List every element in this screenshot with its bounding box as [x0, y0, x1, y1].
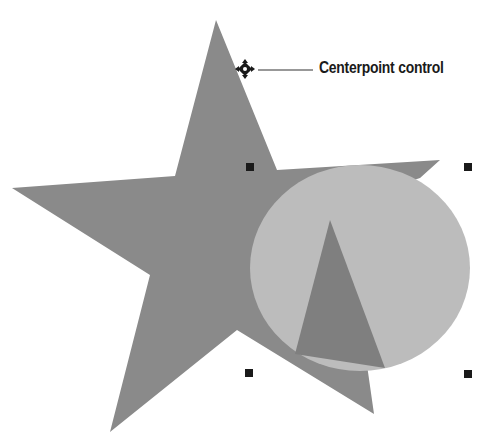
selection-handle-top-right[interactable]	[464, 163, 472, 171]
callout-label: Centerpoint control	[319, 58, 444, 78]
selection-handle-bottom-left[interactable]	[245, 369, 253, 377]
selection-handle-bottom-right[interactable]	[464, 370, 472, 378]
selection-handle-top-left[interactable]	[246, 163, 254, 171]
